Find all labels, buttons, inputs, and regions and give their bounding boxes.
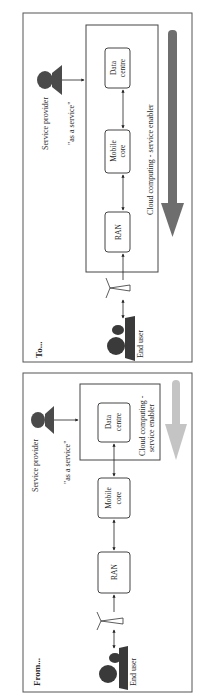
svg-text:Mobile: Mobile [104, 486, 113, 508]
data-centre-box: Data centre [98, 403, 130, 442]
mobile-core-box: Mobile core [105, 130, 130, 173]
svg-text:Data: Data [109, 60, 118, 75]
panel-from-title: From... [32, 658, 42, 686]
svg-text:Data: Data [104, 414, 113, 429]
service-provider-label: Service provider [31, 439, 40, 492]
service-provider-label: Service provider [41, 97, 50, 150]
svg-text:centre: centre [118, 58, 127, 77]
panel-from: From... Cloud computing - service enable… [23, 373, 192, 692]
svg-text:core: core [118, 144, 127, 158]
as-a-service-label: "as a service" [63, 441, 72, 484]
ran-box: RAN [105, 212, 130, 252]
panel-to-title: To... [34, 342, 44, 358]
diagram-canvas: To... Cloud computing - service enabler … [0, 0, 207, 700]
end-user-label: End user [136, 329, 145, 358]
svg-text:core: core [114, 491, 123, 505]
svg-text:centre: centre [114, 412, 123, 431]
svg-text:RAN: RAN [114, 224, 123, 240]
as-a-service-label: "as a service" [67, 102, 76, 145]
mobile-core-box: Mobile core [98, 478, 130, 518]
end-user-label: End user [129, 657, 138, 686]
svg-text:Mobile: Mobile [109, 139, 118, 161]
panel-to: To... Cloud computing - service enabler … [23, 13, 192, 362]
data-centre-box: Data centre [105, 48, 130, 88]
svg-text:RAN: RAN [110, 564, 119, 580]
ran-box: RAN [98, 552, 130, 593]
cloud-enabler-label-line2: service enabler [147, 403, 156, 452]
cloud-enabler-label: Cloud computing - service enabler [146, 104, 155, 215]
cloud-enabler-label-line1: Cloud computing - [138, 395, 147, 456]
